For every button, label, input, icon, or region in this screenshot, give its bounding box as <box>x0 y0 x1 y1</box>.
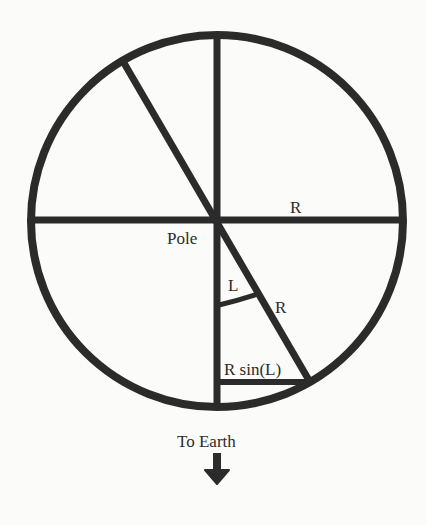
projection-label: R sin(L) <box>224 360 281 379</box>
circle-diagram: R Pole L R R sin(L) To Earth <box>0 0 426 525</box>
to-earth-label: To Earth <box>177 432 236 451</box>
angle-label: L <box>228 276 238 295</box>
radius-label-diagonal: R <box>275 298 287 317</box>
pole-label: Pole <box>167 229 197 248</box>
angle-arc <box>219 294 258 305</box>
arrow-down-icon <box>205 453 229 484</box>
radius-label-horizontal: R <box>290 198 302 217</box>
